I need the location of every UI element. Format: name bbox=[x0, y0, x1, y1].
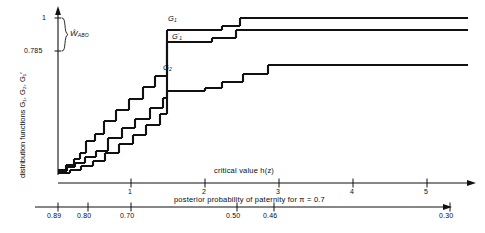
x-axis-top-title: critical value h(z) bbox=[214, 166, 274, 175]
curve-label-g2: G2 bbox=[163, 63, 172, 72]
x-top-tick-1: 1 bbox=[128, 188, 132, 195]
x-bottom-tick-030: 0.30 bbox=[439, 212, 453, 219]
y-axis-title: distribution functions G₁, G₂, G₁′ bbox=[18, 72, 27, 178]
x-bottom-tick-046: 0.46 bbox=[263, 212, 277, 219]
x-top-tick-4: 4 bbox=[350, 188, 354, 195]
w-abo-symbol: Ŵ bbox=[70, 29, 78, 38]
figure-container: 1 0.785 ŴABO distribution functions G₁, … bbox=[0, 0, 485, 233]
x-bottom-tick-089: 0.89 bbox=[47, 212, 61, 219]
x-top-tick-3: 3 bbox=[276, 188, 280, 195]
x-top-tick-2: 2 bbox=[202, 188, 206, 195]
w-abo-brace bbox=[62, 18, 68, 51]
curve-g2 bbox=[58, 65, 468, 173]
x-bottom-tick-070: 0.70 bbox=[120, 212, 134, 219]
g1-subscript: 1 bbox=[174, 17, 177, 23]
curve-label-g1: G1 bbox=[168, 14, 177, 23]
x-top-tick-5: 5 bbox=[424, 188, 428, 195]
w-abo-subscript: ABO bbox=[78, 32, 89, 38]
g1p-subscript: 1 bbox=[179, 35, 182, 41]
y-tick-label-0785: 0.785 bbox=[24, 47, 43, 54]
curve-label-g1-prime: G′1 bbox=[172, 32, 182, 41]
y-tick-label-1: 1 bbox=[42, 14, 46, 21]
x-bottom-tick-080: 0.80 bbox=[77, 212, 91, 219]
x-axis-bottom-title: posterior probability of paternity for π… bbox=[174, 195, 325, 204]
x-axis-critical-value bbox=[58, 179, 476, 188]
x-bottom-tick-050: 0.50 bbox=[226, 212, 240, 219]
g2-subscript: 2 bbox=[169, 66, 172, 72]
w-abo-label: ŴABO bbox=[70, 29, 89, 38]
y-axis bbox=[55, 6, 62, 175]
